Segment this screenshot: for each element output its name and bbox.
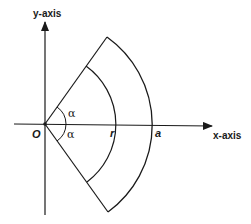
lower-angle-label: α [67,128,75,141]
inner-radius-label: r [110,127,115,139]
outer-radius-label: a [155,127,161,139]
upper-angle-arc [57,107,66,124]
y-axis-label: y-axis [33,8,62,19]
origin-label: O [32,128,41,140]
origin-point [43,122,47,126]
x-axis-label: x-axis [213,130,242,141]
inner-arc [86,66,116,182]
lower-radius-edge [45,124,108,212]
upper-radius-edge [45,37,107,124]
lower-angle-arc [57,124,66,141]
sector-diagram: y-axis x-axis O r a α α [0,0,251,224]
upper-angle-label: α [68,107,76,120]
